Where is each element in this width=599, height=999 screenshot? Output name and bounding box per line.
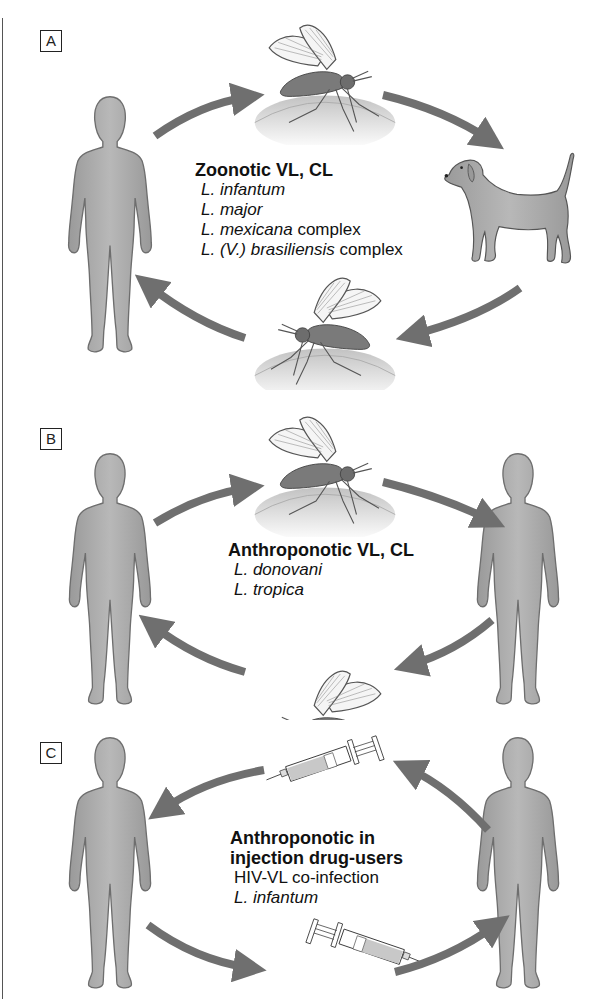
arrow-human-to-fly xyxy=(155,97,248,136)
human-figure-right-icon xyxy=(477,738,558,988)
panel-c: C Anthroponotic in injection drug-users … xyxy=(0,720,599,999)
arrow-left-human-to-syringe xyxy=(148,925,250,968)
dog-icon xyxy=(445,153,574,263)
species-line: L. infantum xyxy=(230,888,403,908)
human-figure-right-icon xyxy=(477,454,558,704)
syringe-top-icon xyxy=(266,736,384,782)
panel-c-title-line1: Anthroponotic in xyxy=(230,828,403,848)
panel-c-title-line2: injection drug-users xyxy=(230,848,403,868)
species-line: L. infantum xyxy=(195,180,403,200)
arrow-right-human-to-syringe xyxy=(408,768,488,830)
human-figure-icon xyxy=(69,97,152,352)
arrow-dog-to-fly xyxy=(412,288,520,335)
panel-c-subtitle: HIV-VL co-infection xyxy=(230,868,403,888)
arrow-left-human-to-fly xyxy=(155,488,248,523)
panel-a-title: Zoonotic VL, CL xyxy=(195,160,403,180)
arrow-syringe-to-right-human xyxy=(395,925,496,972)
panel-a: A Zoonotic VL, CL L. infantum L. major L… xyxy=(0,0,599,390)
species-line: L. tropica xyxy=(228,580,414,600)
species-line: L. (V.) brasiliensis complex xyxy=(195,240,403,260)
arrow-fly-to-left-human xyxy=(152,625,245,672)
species-line: L. major xyxy=(195,200,403,220)
arrow-fly-to-dog xyxy=(383,95,490,140)
arrow-right-human-to-fly xyxy=(410,620,492,665)
panel-a-caption: Zoonotic VL, CL L. infantum L. major L. … xyxy=(195,160,403,260)
species-line: L. mexicana complex xyxy=(195,220,403,240)
arrow-fly-to-human xyxy=(148,285,245,338)
arrow-syringe-to-left-human xyxy=(162,770,264,810)
species-line: L. donovani xyxy=(228,560,414,580)
human-figure-left-icon xyxy=(69,454,150,704)
sandfly-top-icon xyxy=(255,417,395,541)
panel-c-caption: Anthroponotic in injection drug-users HI… xyxy=(230,828,403,908)
arrow-fly-to-right-human xyxy=(383,482,490,520)
syringe-bottom-icon xyxy=(306,919,424,965)
panel-b-caption: Anthroponotic VL, CL L. donovani L. trop… xyxy=(228,540,414,600)
sandfly-top-icon xyxy=(255,25,395,149)
panel-b: B Anthroponotic VL, CL L. donovani L. tr… xyxy=(0,390,599,720)
sandfly-bottom-icon xyxy=(255,278,395,390)
panel-b-title: Anthroponotic VL, CL xyxy=(228,540,414,560)
sandfly-bottom-icon xyxy=(255,671,395,720)
human-figure-left-icon xyxy=(69,738,150,988)
